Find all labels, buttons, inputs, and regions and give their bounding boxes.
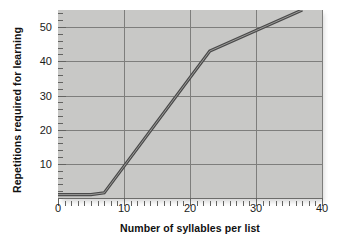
y-tick-46 <box>58 41 63 42</box>
x-tick-7 <box>104 201 105 206</box>
series-stroke-outer <box>58 10 302 195</box>
x-tick-label-10: 10 <box>118 202 130 214</box>
y-tick-44 <box>58 48 63 49</box>
x-tick-18 <box>177 201 178 206</box>
y-tick-52 <box>58 20 63 21</box>
x-tick-24 <box>216 201 217 206</box>
y-tick-label-20: 20 <box>40 124 52 136</box>
x-tick-15 <box>157 201 158 206</box>
y-tick-12 <box>58 157 63 158</box>
series-stroke-inner <box>58 10 302 195</box>
y-tick-30 <box>58 96 66 97</box>
y-tick-48 <box>58 34 63 35</box>
y-tick-24 <box>58 116 63 117</box>
x-tick-34 <box>282 201 283 206</box>
y-tick-8 <box>58 171 63 172</box>
x-tick-label-40: 40 <box>316 202 328 214</box>
x-tick-12 <box>137 201 138 206</box>
y-tick-20 <box>58 130 66 131</box>
x-tick-25 <box>223 201 224 206</box>
x-tick-5 <box>91 201 92 206</box>
x-tick-36 <box>296 201 297 206</box>
x-tick-26 <box>230 201 231 206</box>
y-tick-36 <box>58 75 63 76</box>
y-tick-50 <box>58 27 66 28</box>
y-tick-0 <box>58 198 63 199</box>
x-tick-16 <box>164 201 165 206</box>
y-tick-label-30: 30 <box>40 90 52 102</box>
x-tick-21 <box>197 201 198 206</box>
y-tick-38 <box>58 68 63 69</box>
y-tick-6 <box>58 178 63 179</box>
x-tick-label-20: 20 <box>184 202 196 214</box>
y-tick-26 <box>58 109 63 110</box>
data-series-line <box>58 10 322 198</box>
y-tick-32 <box>58 89 63 90</box>
x-tick-37 <box>302 201 303 206</box>
x-tick-label-30: 30 <box>250 202 262 214</box>
x-tick-2 <box>71 201 72 206</box>
y-tick-label-50: 50 <box>40 21 52 33</box>
x-tick-6 <box>98 201 99 206</box>
y-tick-40 <box>58 61 66 62</box>
x-tick-1 <box>65 201 66 206</box>
x-tick-4 <box>84 201 85 206</box>
y-tick-4 <box>58 184 63 185</box>
x-tick-14 <box>150 201 151 206</box>
x-tick-22 <box>203 201 204 206</box>
x-tick-38 <box>309 201 310 206</box>
x-tick-27 <box>236 201 237 206</box>
y-tick-label-40: 40 <box>40 55 52 67</box>
y-tick-16 <box>58 143 63 144</box>
x-tick-13 <box>144 201 145 206</box>
x-tick-32 <box>269 201 270 206</box>
x-tick-31 <box>263 201 264 206</box>
y-tick-22 <box>58 123 63 124</box>
x-axis-title: Number of syllables per list <box>58 222 322 234</box>
x-tick-28 <box>243 201 244 206</box>
x-tick-17 <box>170 201 171 206</box>
y-tick-54 <box>58 13 63 14</box>
y-tick-28 <box>58 102 63 103</box>
x-tick-11 <box>131 201 132 206</box>
y-tick-18 <box>58 137 63 138</box>
y-tick-10 <box>58 164 66 165</box>
y-tick-14 <box>58 150 63 151</box>
y-tick-2 <box>58 191 63 192</box>
x-tick-23 <box>210 201 211 206</box>
x-tick-8 <box>111 201 112 206</box>
x-tick-3 <box>78 201 79 206</box>
chart-figure: 010203040 1020304050 Number of syllables… <box>0 0 345 242</box>
y-tick-34 <box>58 82 63 83</box>
gridline-x-40 <box>322 10 323 198</box>
y-tick-label-10: 10 <box>40 158 52 170</box>
x-tick-label-0: 0 <box>55 202 61 214</box>
x-tick-33 <box>276 201 277 206</box>
y-tick-42 <box>58 54 63 55</box>
y-axis-ticks <box>58 10 66 198</box>
y-axis-title: Repetitions required for learning <box>11 15 23 205</box>
x-tick-35 <box>289 201 290 206</box>
